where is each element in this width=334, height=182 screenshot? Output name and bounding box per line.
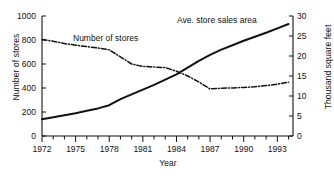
- y-tick-right-15: 15: [297, 71, 321, 81]
- y-tick-left-0: 0: [8, 131, 36, 141]
- y-tick-right-30: 30: [297, 11, 321, 21]
- x-tick-1978: 1978: [94, 144, 124, 154]
- series-annotation-ave-store-sales-area: Ave. store sales area: [177, 15, 257, 25]
- y-tick-left-1000: 1000: [8, 11, 36, 21]
- x-tick-1975: 1975: [61, 144, 91, 154]
- y-tick-right-0: 0: [297, 131, 321, 141]
- series-line-number-of-stores: [42, 39, 289, 89]
- y-tick-right-10: 10: [297, 91, 321, 101]
- y-tick-left-400: 400: [8, 83, 36, 93]
- x-tick-1984: 1984: [161, 144, 191, 154]
- y-tick-right-20: 20: [297, 51, 321, 61]
- y-tick-right-25: 25: [297, 31, 321, 41]
- plot-area: [0, 0, 334, 182]
- y-tick-left-800: 800: [8, 35, 36, 45]
- chart-figure: Number of stores Thousand square feet Ye…: [0, 0, 334, 182]
- x-tick-1972: 1972: [27, 144, 57, 154]
- x-tick-1981: 1981: [128, 144, 158, 154]
- series-annotation-number-of-stores: Number of stores: [73, 33, 138, 43]
- x-tick-1990: 1990: [229, 144, 259, 154]
- y-tick-left-600: 600: [8, 59, 36, 69]
- x-tick-1993: 1993: [262, 144, 292, 154]
- y-tick-right-5: 5: [297, 111, 321, 121]
- x-tick-1987: 1987: [195, 144, 225, 154]
- y-axis-right-title: Thousand square feet: [323, 7, 333, 127]
- y-tick-left-200: 200: [8, 107, 36, 117]
- x-axis-title: Year: [42, 158, 294, 168]
